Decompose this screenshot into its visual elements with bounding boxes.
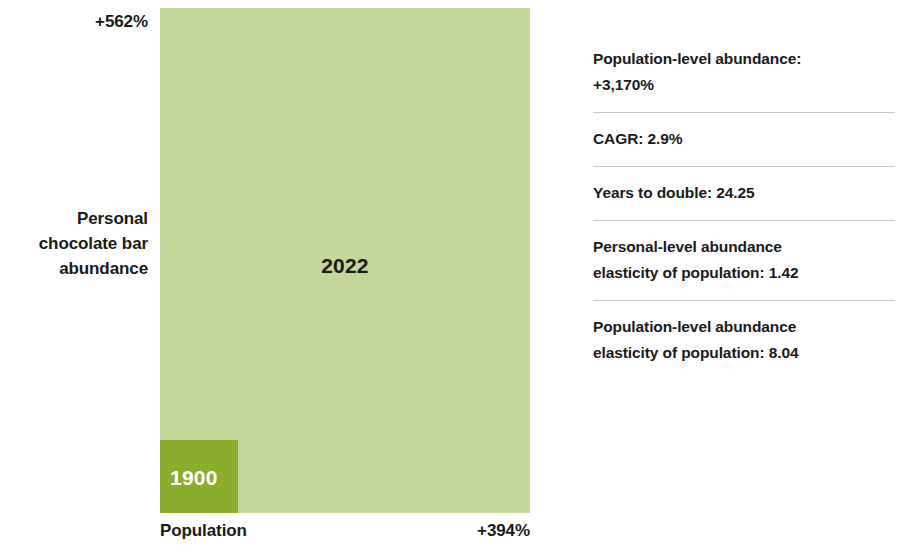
y-axis-title: Personal chocolate bar abundance: [0, 206, 148, 281]
stat-personal-level-elasticity: Personal-level abundance elasticity of p…: [593, 221, 895, 300]
y-axis-title-line-2: chocolate bar: [0, 231, 148, 256]
stat-line-1: CAGR: 2.9%: [593, 126, 895, 152]
inner-rectangle-label: 1900: [170, 466, 218, 490]
growth-comparison-chart: +562% Personal chocolate bar abundance 2…: [0, 0, 560, 549]
x-axis-end-value: +394%: [477, 521, 530, 541]
stat-line-1: Years to double: 24.25: [593, 180, 895, 206]
stat-years-to-double: Years to double: 24.25: [593, 167, 895, 220]
stats-panel: Population-level abundance: +3,170% CAGR…: [593, 46, 895, 366]
stat-population-level-abundance: Population-level abundance: +3,170%: [593, 46, 895, 112]
x-axis: Population +394%: [160, 521, 530, 541]
stat-cagr: CAGR: 2.9%: [593, 113, 895, 166]
outer-rectangle-label: 2022: [160, 254, 530, 278]
x-axis-title: Population: [160, 521, 247, 541]
stat-line-1: Population-level abundance: [593, 314, 895, 340]
y-axis-title-line-1: Personal: [0, 206, 148, 231]
stat-line-2: elasticity of population: 1.42: [593, 260, 895, 286]
stat-line-1: Population-level abundance:: [593, 46, 895, 72]
y-axis-title-line-3: abundance: [0, 256, 148, 281]
stat-population-level-elasticity: Population-level abundance elasticity of…: [593, 301, 895, 366]
outer-rectangle-2022: 2022: [160, 8, 530, 513]
stat-line-1: Personal-level abundance: [593, 234, 895, 260]
inner-rectangle-1900: 1900: [160, 440, 238, 513]
stat-line-2: elasticity of population: 8.04: [593, 340, 895, 366]
y-axis-end-value: +562%: [0, 12, 148, 32]
stat-line-2: +3,170%: [593, 72, 895, 98]
